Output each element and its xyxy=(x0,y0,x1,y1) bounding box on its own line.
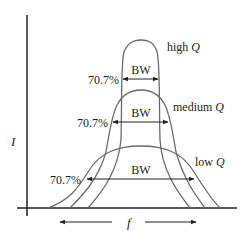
high-q-bw-label: BW xyxy=(131,63,151,77)
y-axis-label: I xyxy=(10,134,16,149)
medium-q-bw-label: BW xyxy=(131,106,151,120)
low-q-bw-label: BW xyxy=(131,163,151,177)
medium-q-label: medium Q xyxy=(173,100,224,114)
resonance-diagram: BW 70.7% high Q BW 70.7% medium Q BW 70.… xyxy=(0,0,252,231)
low-q-label: low Q xyxy=(195,155,225,169)
high-q-percent-label: 70.7% xyxy=(88,73,119,87)
low-q-percent-label: 70.7% xyxy=(50,173,81,187)
x-axis-label: f xyxy=(127,215,133,230)
high-q-label: high Q xyxy=(167,40,200,54)
medium-q-percent-label: 70.7% xyxy=(77,116,108,130)
